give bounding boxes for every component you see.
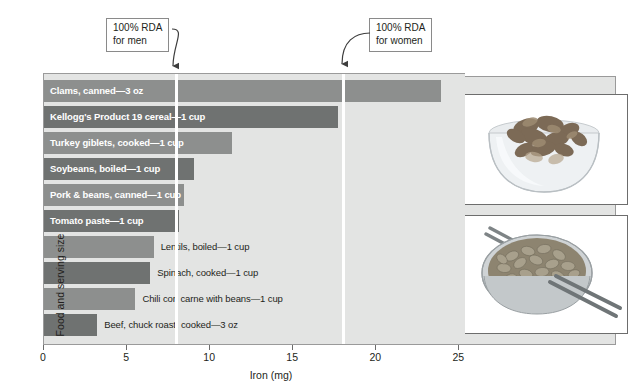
callout-rda-women-line1: 100% RDA [376,22,425,35]
x-tick-label: 5 [123,351,129,363]
x-tick [43,345,44,350]
callout-rda-men-line2: for men [113,35,162,48]
x-tick-label: 15 [286,351,298,363]
callout-rda-men: 100% RDA for men [106,18,169,52]
arrow-rda-women [342,33,370,64]
y-axis-title: Food and serving size [54,190,66,380]
x-tick-label: 20 [369,351,381,363]
rda-women-line [342,74,345,344]
x-tick-label: 25 [453,351,465,363]
bar-label: Spinach, cooked—1 cup [157,262,258,284]
bar-label: Beef, chuck roast, cooked—3 oz [104,314,238,336]
bar-label: Chili con carne with beans—1 cup [142,288,282,310]
x-tick-label: 10 [203,351,215,363]
iron-content-bar-chart: 100% RDA for men 100% RDA for women [0,0,634,392]
bar-label: Pork & beans, canned—1 cup [50,184,181,206]
x-tick [209,345,210,350]
bar [44,314,97,336]
bar-label: Turkey giblets, cooked—1 cup [50,132,184,154]
bar-label: Lentils, boiled—1 cup [161,236,250,258]
bar-label: Soybeans, boiled—1 cup [50,158,160,180]
cereal-bowl-photo [463,94,628,205]
x-tick [292,345,293,350]
callout-rda-men-line1: 100% RDA [113,22,162,35]
x-axis-title-text: Iron (mg) [250,369,293,381]
x-tick [375,345,376,350]
x-tick [126,345,127,350]
x-tick-label: 0 [40,351,46,363]
arrow-rda-men [172,29,178,66]
bar-label: Kellogg's Product 19 cereal—1 cup [50,106,205,128]
rda-men-line [175,74,178,344]
plot-area: Clams, canned—3 ozKellogg's Product 19 c… [43,73,465,345]
x-axis: 0510152025 [43,345,465,351]
callout-rda-women: 100% RDA for women [369,18,432,52]
beans-bowl-photo [463,215,628,334]
x-tick [458,345,459,350]
x-axis-title: Iron (mg) [0,369,634,381]
bar-label: Clams, canned—3 oz [50,80,143,102]
callout-rda-women-line2: for women [376,35,425,48]
